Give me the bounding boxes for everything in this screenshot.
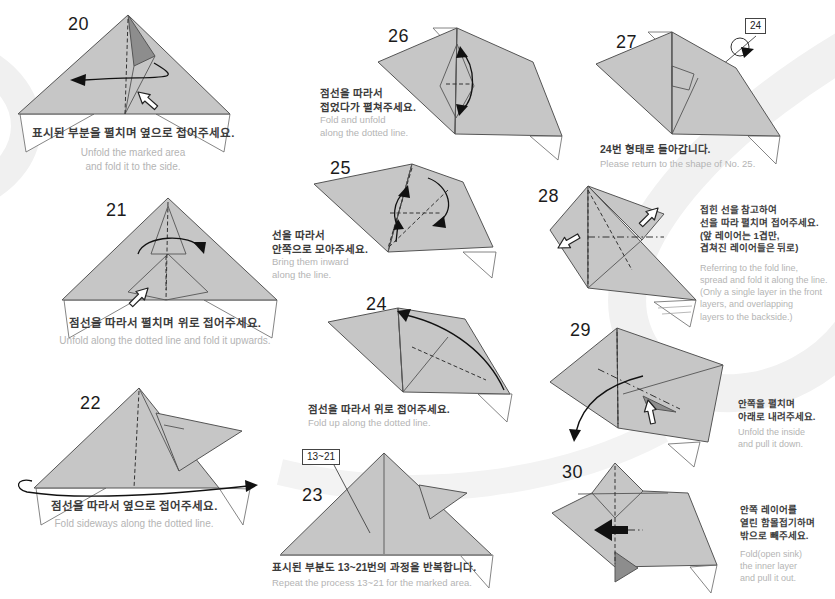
step-21: 21 점선을 따라서 펼치며 위로 접어주세요. Unfold along th… <box>40 194 305 359</box>
step-27-caption-ko: 24번 형태로 돌아갑니다. <box>600 142 820 156</box>
step-28-caption-en: Referring to the fold line, spread and f… <box>700 262 835 323</box>
step-23: 13~21 23 표시된 부분도 13~21번의 과정을 반복합니다. Repe… <box>272 443 517 599</box>
step-25: 25 선을 따라서 안쪽으로 모아주세요. Bring them inward … <box>308 158 523 293</box>
step-24-caption-ko: 점선을 따라서 위로 접어주세요. <box>308 402 538 416</box>
step-28-caption-ko: 접힌 선을 참고하여 선을 따라 펼치며 접어주세요. (앞 레이어는 1겹만,… <box>700 204 835 255</box>
step-23-caption-ko: 표시된 부분도 13~21번의 과정을 반복합니다. <box>272 560 512 574</box>
step-25-caption-ko: 선을 따라서 안쪽으로 모아주세요. <box>272 228 382 256</box>
step-20: 20 표시된 부분을 펼치며 옆으로 접어주세요. Unfold the mar… <box>8 10 266 180</box>
step-24-caption-en: Fold up along the dotted line. <box>308 417 538 430</box>
step-29: 29 안쪽을 펼치며 아래로 내려주세요. Unfold the inside … <box>548 318 835 463</box>
step-29-caption-ko: 안쪽을 펼치며 아래로 내려주세요. <box>738 398 833 424</box>
step-20-caption-ko: 표시된 부분을 펼치며 옆으로 접어주세요. <box>8 126 258 142</box>
step-26-caption-en: Fold and unfold along the dotted line. <box>320 114 425 140</box>
origami-instruction-page: 20 표시된 부분을 펼치며 옆으로 접어주세요. Unfold the mar… <box>0 0 835 599</box>
step-22-caption-en: Fold sideways along the dotted line. <box>24 517 244 531</box>
step-27: 27 24 24번 형태로 돌아갑니다. Please return to th… <box>588 16 835 178</box>
step-22-caption-ko: 점선을 따라서 옆으로 접어주세요. <box>24 499 244 515</box>
step-25-caption-en: Bring them inward along the line. <box>272 256 382 282</box>
step-26-caption-ko: 점선을 따라서 접었다가 펼쳐주세요. <box>320 86 425 114</box>
step-27-caption-en: Please return to the shape of No. 25. <box>600 158 820 171</box>
step-21-caption-ko: 점선을 따라서 펼치며 위로 접어주세요. <box>30 316 300 332</box>
step-26: 26 점선을 따라서 접었다가 펼쳐주세요. Fold and unfold a… <box>348 22 573 162</box>
step-30-caption-en: Fold(open sink) the inner layer and pull… <box>740 548 835 584</box>
step-20-caption-en: Unfold the marked area and fold it to th… <box>8 146 258 173</box>
step-30-caption-ko: 안쪽 레이어를 열린 함몰접기하며 밖으로 빼주세요. <box>740 504 835 542</box>
step-29-caption-en: Unfold the inside and pull it down. <box>738 426 833 450</box>
step-23-caption-en: Repeat the process 13~21 for the marked … <box>272 577 512 590</box>
step-21-caption-en: Unfold along the dotted line and fold it… <box>20 334 310 348</box>
step-24: 24 점선을 따라서 위로 접어주세요. Fold up along the d… <box>300 296 540 436</box>
step-30: 30 안쪽 레이어를 열린 함몰접기하며 밖으로 빼주세요. Fold(open… <box>548 456 835 599</box>
step-22: 22 점선을 따라서 옆으로 접어주세요. Fold sideways alon… <box>14 385 269 540</box>
step-28: 28 접힌 선을 참고하여 선을 따라 펼치며 접어주세요. (앞 레이어는 1… <box>538 182 835 322</box>
